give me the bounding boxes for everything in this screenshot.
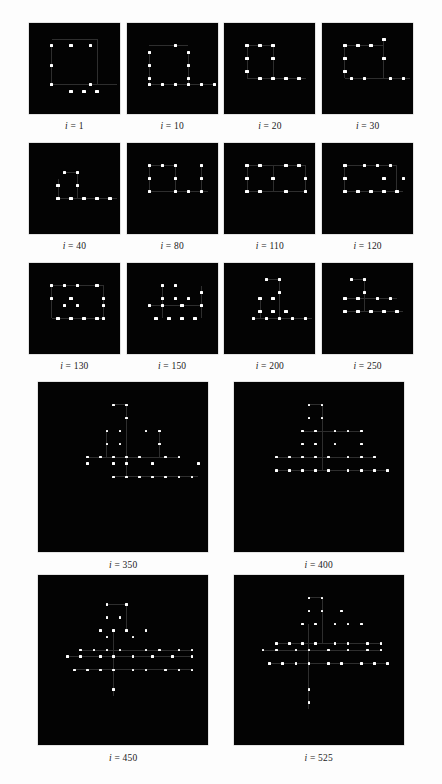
lattice-node	[145, 629, 148, 632]
lattice-node	[102, 317, 105, 320]
lattice-node	[386, 469, 389, 472]
lattice-node	[79, 649, 82, 652]
simulation-panel-i-150	[127, 263, 218, 354]
lattice-node	[314, 430, 317, 433]
lattice-edge	[279, 279, 280, 318]
lattice-node	[161, 297, 164, 300]
lattice-node	[314, 642, 317, 645]
lattice-node	[382, 190, 385, 193]
panel-caption: i = 1	[65, 122, 84, 132]
lattice-node	[360, 662, 363, 665]
lattice-node	[389, 77, 392, 80]
lattice-node	[386, 662, 389, 665]
lattice-node	[200, 177, 203, 180]
lattice-node	[314, 623, 317, 626]
lattice-node	[178, 476, 181, 479]
lattice-node	[174, 83, 177, 86]
lattice-node	[132, 669, 135, 672]
lattice-node	[50, 297, 53, 300]
lattice-node	[380, 649, 383, 652]
lattice-node	[360, 469, 363, 472]
panel-caption: i = 120	[353, 242, 381, 252]
caption-value: 120	[367, 241, 382, 251]
lattice-node	[288, 469, 291, 472]
lattice-node	[69, 44, 72, 47]
lattice-node	[258, 77, 261, 80]
lattice-node	[95, 317, 98, 320]
lattice-node	[245, 164, 248, 167]
lattice-edge	[126, 405, 127, 477]
lattice-edge	[97, 84, 117, 85]
panel-row-4: i = 350i = 400	[0, 382, 442, 571]
lattice-node	[119, 443, 122, 446]
caption-equals: =	[259, 241, 270, 251]
lattice-node	[138, 476, 141, 479]
lattice-node	[369, 310, 372, 313]
lattice-node	[191, 669, 194, 672]
lattice-node	[76, 171, 79, 174]
lattice-node	[50, 83, 53, 86]
panel-caption: i = 350	[109, 561, 137, 571]
lattice-node	[119, 649, 122, 652]
caption-equals: =	[161, 361, 172, 371]
caption-equals: =	[112, 560, 123, 570]
lattice-node	[376, 297, 379, 300]
lattice-edge	[81, 650, 192, 651]
lattice-node	[389, 164, 392, 167]
lattice-edge	[322, 598, 323, 644]
lattice-node	[69, 297, 72, 300]
lattice-node	[376, 164, 379, 167]
lattice-edge	[113, 631, 114, 696]
lattice-node	[265, 278, 268, 281]
lattice-node	[178, 456, 181, 459]
lattice-node	[89, 44, 92, 47]
caption-equals: =	[307, 560, 318, 570]
simulation-panel-i-350	[38, 382, 208, 552]
simulation-panel-i-120	[322, 143, 413, 234]
lattice-node	[171, 655, 174, 658]
lattice-node	[106, 616, 109, 619]
lattice-node	[119, 616, 122, 619]
simulation-panel-i-400	[234, 382, 404, 552]
lattice-node	[125, 417, 128, 420]
lattice-node	[82, 317, 85, 320]
lattice-node	[245, 57, 248, 60]
lattice-node	[164, 669, 167, 672]
lattice-node	[363, 77, 366, 80]
panel-caption: i = 150	[158, 362, 186, 372]
simulation-panel-i-525	[234, 575, 404, 745]
lattice-edge	[58, 179, 59, 199]
lattice-node	[343, 190, 346, 193]
lattice-node	[180, 317, 183, 320]
lattice-node	[99, 655, 102, 658]
lattice-node	[343, 297, 346, 300]
lattice-node	[191, 649, 194, 652]
lattice-node	[258, 44, 261, 47]
lattice-node	[382, 310, 385, 313]
lattice-node	[343, 70, 346, 73]
lattice-node	[187, 64, 190, 67]
lattice-node	[321, 417, 324, 420]
lattice-node	[340, 610, 343, 613]
lattice-node	[343, 57, 346, 60]
lattice-node	[271, 44, 274, 47]
lattice-node	[314, 469, 317, 472]
lattice-node	[308, 701, 311, 704]
lattice-node	[395, 190, 398, 193]
lattice-node	[356, 297, 359, 300]
caption-equals: =	[259, 361, 270, 371]
lattice-node	[191, 476, 194, 479]
lattice-node	[106, 636, 109, 639]
lattice-node	[301, 642, 304, 645]
panel-row-5: i = 450i = 525	[0, 575, 442, 764]
lattice-node	[278, 278, 281, 281]
lattice-node	[151, 462, 154, 465]
lattice-node	[373, 662, 376, 665]
simulation-panel-i-200	[224, 263, 315, 354]
panel-cell: i = 150	[123, 263, 221, 372]
lattice-node	[200, 304, 203, 307]
lattice-node	[382, 177, 385, 180]
lattice-node	[106, 430, 109, 433]
lattice-node	[187, 83, 190, 86]
lattice-edge	[103, 286, 104, 319]
